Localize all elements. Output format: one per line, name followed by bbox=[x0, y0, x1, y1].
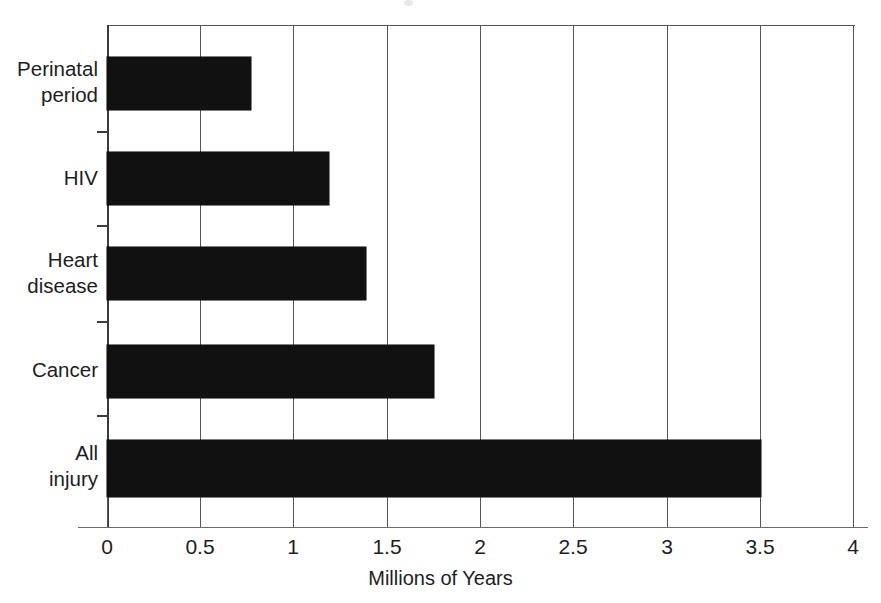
bar-chart: Perinatal period HIV Heart disease Cance… bbox=[0, 0, 881, 603]
x-tick-label-3: 3 bbox=[661, 534, 673, 560]
x-tick-label-0-5: 0.5 bbox=[185, 534, 214, 560]
y-tick-4 bbox=[97, 415, 108, 417]
x-tick-0-5 bbox=[200, 497, 201, 527]
y-axis-label-hiv: HIV bbox=[0, 165, 98, 191]
x-tick-4 bbox=[853, 497, 854, 527]
y-tick-2 bbox=[97, 225, 108, 227]
x-tick-label-1: 1 bbox=[287, 534, 299, 560]
x-tick-label-4: 4 bbox=[847, 534, 859, 560]
bar-heart-disease bbox=[107, 247, 366, 300]
x-tick-label-2: 2 bbox=[474, 534, 486, 560]
x-axis-title: Millions of Years bbox=[0, 566, 881, 590]
plot-area bbox=[107, 25, 853, 527]
x-axis-baseline bbox=[78, 527, 868, 528]
y-tick-3 bbox=[97, 321, 108, 323]
y-axis-label-perinatal-period: Perinatal period bbox=[0, 56, 98, 107]
x-tick-2 bbox=[480, 497, 481, 527]
y-axis-label-heart-disease: Heart disease bbox=[0, 247, 98, 298]
y-axis-label-all-injury: All injury bbox=[0, 440, 98, 491]
x-tick-label-2-5: 2.5 bbox=[558, 534, 587, 560]
bar-hiv bbox=[107, 152, 329, 205]
y-tick-1 bbox=[97, 131, 108, 133]
x-tick-label-1-5: 1.5 bbox=[372, 534, 401, 560]
x-tick-3 bbox=[667, 497, 668, 527]
x-tick-2-5 bbox=[573, 497, 574, 527]
x-tick-0 bbox=[107, 497, 108, 527]
bar-perinatal-period bbox=[107, 57, 251, 110]
x-tick-1-5 bbox=[387, 497, 388, 527]
x-tick-label-0: 0 bbox=[101, 534, 113, 560]
gridline-4 bbox=[853, 25, 854, 527]
scan-artifact bbox=[404, 0, 413, 6]
y-axis-label-cancer: Cancer bbox=[0, 357, 98, 383]
x-tick-1 bbox=[293, 497, 294, 527]
x-tick-label-3-5: 3.5 bbox=[745, 534, 774, 560]
x-tick-3-5 bbox=[760, 497, 761, 527]
bar-cancer bbox=[107, 345, 434, 398]
bar-all-injury bbox=[107, 440, 761, 497]
